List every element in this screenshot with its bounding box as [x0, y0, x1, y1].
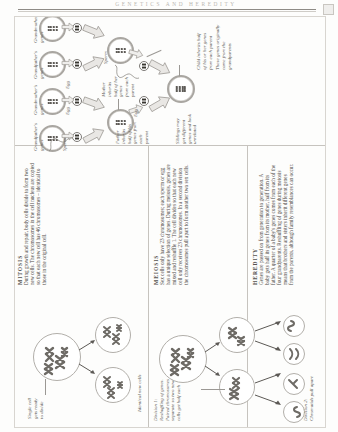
label-grandfather-2: Grandfather's genes [33, 43, 45, 79]
text-meiosis: Sex cells only have 23 chromosomes; each… [159, 163, 189, 285]
mitosis-parent-cell [33, 333, 81, 381]
chromosome-cluster [47, 62, 57, 68]
illustration-plate: Grandfather's genes Grandmother's genes … [14, 16, 326, 428]
meiosis-gamete-2 [283, 343, 305, 365]
arrow-sperm3-to-child [147, 57, 173, 79]
chromosome-cluster [176, 86, 186, 92]
chromosome-cluster [47, 26, 57, 32]
label-division-2: Division 2: Chromatids pull apart [303, 355, 315, 421]
label-identical-new-cells: Identical new cells [137, 352, 143, 412]
text-heredity: Genes are passed on from generation to g… [258, 163, 294, 285]
label-single-cell: Single cell gets ready to divide [27, 385, 44, 419]
arrow-meiosis-down [205, 365, 220, 377]
arrow-gamete-1 [255, 319, 281, 333]
arrow-gamete-3 [255, 371, 281, 385]
label-grandfather-1: Grandfather's genes [33, 115, 45, 151]
mitosis-daughter-cell-1 [95, 317, 131, 353]
arrow-gamete-2 [255, 339, 281, 353]
arrow-gamete-4 [255, 393, 281, 407]
text-mitosis: During growth and repair, body cells div… [23, 163, 47, 285]
label-grandmother-2: Grandmother's genes [33, 16, 45, 43]
label-sperm-1: Sperm [62, 129, 68, 151]
label-egg-2: Egg [65, 71, 71, 89]
meiosis-cell-b [219, 369, 255, 405]
book-page: GENETICS AND HEREDITY [0, 0, 338, 432]
label-sibling: Siblings may get different genes and loo… [175, 100, 198, 144]
arrow-meiosis-up [205, 341, 220, 353]
label-child: Child inherits half of his or her genes … [196, 22, 213, 70]
arrow-mitosis-up [79, 339, 95, 351]
label-division-1: Division 1: Reshuffling of genes. Paired… [153, 351, 182, 421]
meiosis-gamete-4 [283, 401, 305, 423]
leader-child [179, 65, 180, 76]
label-child-note: These genes originally came from the gra… [215, 22, 232, 70]
cell-child [167, 75, 195, 103]
leader-single-cell [45, 379, 46, 395]
meiosis-gamete-3 [283, 373, 305, 395]
arrow-grandmother2-to-egg [62, 23, 74, 31]
divider-vertical-1 [148, 146, 149, 427]
arrow-grandfather2-to-sperm [62, 59, 74, 67]
header-rule [18, 9, 316, 10]
arrow-sperm-to-mother [81, 125, 107, 147]
leader-division1 [201, 389, 225, 390]
meiosis-gamete-1 [283, 315, 305, 337]
sperm-tail-icon-1 [47, 135, 73, 153]
label-grandmother-1: Grandmother's genes [33, 79, 45, 115]
header-rule-secondary [18, 11, 316, 12]
arrow-mitosis-down [79, 363, 95, 375]
label-father: Father inherits half of his genes from e… [115, 86, 150, 144]
chromosome-cluster [47, 99, 57, 105]
label-egg-1: Egg [65, 97, 71, 115]
meiosis-cell-a [219, 317, 255, 353]
mitosis-daughter-cell-2 [95, 367, 131, 403]
page-corner-icon [323, 4, 334, 15]
